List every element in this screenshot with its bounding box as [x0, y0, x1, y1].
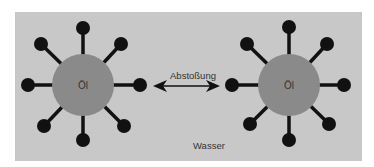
left-oil-label: Öl — [78, 80, 88, 91]
oil-repulsion-diagram: Öl Öl Abstoßung Wasser — [0, 0, 374, 167]
repulsion-label: Abstoßung — [170, 70, 216, 81]
water-label: Wasser — [193, 140, 225, 151]
right-oil-label: Öl — [284, 80, 294, 91]
